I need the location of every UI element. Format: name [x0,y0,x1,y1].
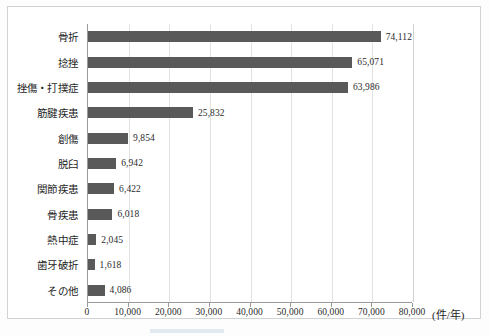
bar [88,31,381,42]
bar-value-label: 6,018 [117,209,139,219]
bar [88,209,112,220]
bar [88,259,95,270]
x-tick-label: 40,000 [236,307,263,317]
bar-value-label: 2,045 [101,235,123,245]
x-tick-label: 60,000 [317,307,344,317]
bar [88,133,128,144]
bar-row: 6,422 [88,176,412,201]
bar-row: 6,942 [88,151,412,176]
bar-value-label: 6,422 [119,184,141,194]
bar [88,158,116,169]
scan-artifact [150,329,224,333]
bar [88,57,352,68]
category-label: 関節疾患 [8,176,83,201]
bar-value-label: 25,832 [198,108,225,118]
bar-value-label: 65,071 [357,57,384,67]
bar-rows: 74,11265,07163,98625,8329,8546,9426,4226… [88,24,412,302]
x-tick-label: 80,000 [399,307,426,317]
bar-value-label: 4,086 [110,285,132,295]
gridline [413,24,414,302]
x-axis-unit-label: (件/年) [432,306,464,322]
plot-area: 74,11265,07163,98625,8329,8546,9426,4226… [87,24,412,303]
bar-value-label: 1,618 [100,260,122,270]
category-label: 熱中症 [8,227,83,252]
category-label: 骨疾患 [8,202,83,227]
category-label: その他 [8,278,83,303]
bar-row: 2,045 [88,227,412,252]
bar [88,234,96,245]
x-tick-label: 20,000 [155,307,182,317]
category-label: 脱臼 [8,151,83,176]
figure-frame: 骨折捻挫挫傷・打撲症筋腱疾患創傷脱臼関節疾患骨疾患熱中症歯牙破折その他 74,1… [7,6,481,319]
bar-value-label: 9,854 [133,133,155,143]
bar [88,285,105,296]
bar-value-label: 74,112 [386,32,412,42]
bar [88,82,348,93]
bar-value-label: 63,986 [353,82,380,92]
bar-row: 74,112 [88,24,412,49]
bar-row: 25,832 [88,100,412,125]
category-label: 骨折 [8,24,83,49]
x-tick-label: 10,000 [114,307,141,317]
category-axis-labels: 骨折捻挫挫傷・打撲症筋腱疾患創傷脱臼関節疾患骨疾患熱中症歯牙破折その他 [8,24,83,303]
bar-row: 4,086 [88,278,412,303]
bar-value-label: 6,942 [121,158,143,168]
bar-row: 6,018 [88,202,412,227]
bar [88,183,114,194]
bar-row: 9,854 [88,125,412,150]
bar-row: 65,071 [88,49,412,74]
x-tick-label: 70,000 [358,307,385,317]
x-tick-label: 50,000 [277,307,304,317]
category-label: 歯牙破折 [8,252,83,277]
x-tick-label: 30,000 [196,307,223,317]
category-label: 捻挫 [8,49,83,74]
bar-row: 1,618 [88,252,412,277]
category-label: 創傷 [8,125,83,150]
x-tick-label: 0 [85,307,90,317]
category-label: 挫傷・打撲症 [8,75,83,100]
category-label: 筋腱疾患 [8,100,83,125]
bar [88,107,193,118]
bar-row: 63,986 [88,75,412,100]
